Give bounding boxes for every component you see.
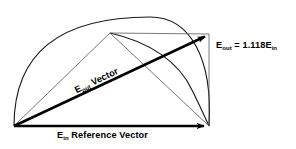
- eout-value-operand-subscript: in: [272, 45, 277, 51]
- eout-value-symbol-subscript: out: [222, 45, 231, 51]
- vector-diagram-canvas: [0, 0, 296, 149]
- ein-reference-text: Reference Vector: [69, 130, 148, 140]
- construction-line-top-horizontal: [110, 33, 209, 34]
- eout-resultant-vector-arrow: [14, 37, 205, 127]
- eout-value-operand: E: [265, 40, 271, 50]
- vector-diagram-figure: Eout = 1.118Ein Ein Reference Vector Eou…: [0, 0, 296, 149]
- construction-line-crossing-to-reference-end: [110, 33, 209, 126]
- ein-reference-symbol-subscript: in: [63, 135, 68, 141]
- eout-value-label: Eout = 1.118Ein: [216, 40, 277, 50]
- eout-value-coefficient: 1.118: [242, 40, 265, 50]
- eout-value-equals: =: [232, 40, 243, 50]
- ein-reference-vector-label: Ein Reference Vector: [57, 130, 148, 140]
